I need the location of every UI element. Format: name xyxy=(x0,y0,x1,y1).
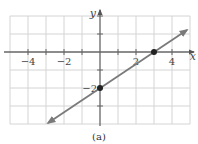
x-tick-label: −2 xyxy=(57,56,72,67)
x-axis-label: x xyxy=(190,50,197,63)
x-tick-label: −4 xyxy=(21,56,36,67)
x-tick-label: 4 xyxy=(169,56,175,67)
line-chart: −4 −2 2 4 −2 x y (a) xyxy=(0,0,198,144)
x-intercept-point xyxy=(151,49,157,55)
y-axis-label: y xyxy=(89,7,97,20)
figure-caption: (a) xyxy=(92,131,106,142)
y-intercept-point xyxy=(97,85,103,91)
